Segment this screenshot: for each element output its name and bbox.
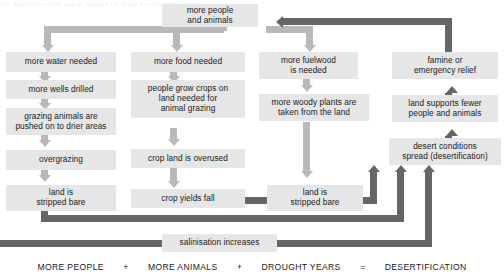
arrow-down-to-more-food (171, 45, 183, 52)
node-desert-conditions-spread[interactable]: desert conditions spread (desertificatio… (389, 138, 501, 165)
summary-equation: MORE PEOPLE + MORE ANIMALS + DROUGHT YEA… (0, 256, 504, 278)
node-land-is-stripped-bare-right[interactable]: land is stripped bare (267, 185, 363, 211)
connector-left-drop (44, 26, 51, 46)
node-more-wells-drilled[interactable]: more wells drilled (6, 80, 116, 99)
equation-term-more-people: MORE PEOPLE (37, 262, 103, 272)
arrow-down-to-more-water (42, 45, 54, 52)
node-people-grow-crops[interactable]: people grow crops on land needed for ani… (131, 80, 245, 118)
node-land-is-stripped-bare-left[interactable]: land is stripped bare (6, 185, 116, 211)
arrow-woody-to-stripped (301, 171, 313, 178)
node-more-water-needed[interactable]: more water needed (6, 52, 116, 72)
node-salinisation-increases[interactable]: salinisation increases (162, 234, 277, 252)
node-more-fuelwood-is-needed[interactable]: more fuelwood is needed (259, 52, 358, 79)
equation-operator-plus-1: + (104, 262, 148, 272)
arrow-up-to-famine (446, 86, 458, 93)
connector-centre-drop (173, 33, 180, 45)
connector-yields-corner-up (370, 172, 377, 204)
connector-famine-left-bus (283, 18, 452, 25)
node-crop-yields-fall[interactable]: crop yields fall (131, 189, 245, 208)
arrow-up-to-land-supports-fewer (446, 129, 458, 136)
arrow-overgrazing-to-stripped (39, 175, 51, 182)
equation-term-drought-years: DROUGHT YEARS (262, 262, 341, 272)
node-more-people-and-animals[interactable]: more people and animals (162, 4, 258, 27)
flow-diagram: the desertification spiral caused by mor… (0, 0, 504, 278)
connector-woody-to-stripped (303, 122, 310, 172)
arrow-cropland-to-yields (168, 181, 180, 188)
node-overgrazing[interactable]: overgrazing (6, 150, 116, 170)
arrow-up-desert-middle (395, 165, 407, 172)
node-more-woody-plants-taken[interactable]: more woody plants are taken from the lan… (259, 94, 369, 121)
node-grazing-animals-pushed[interactable]: grazing animals are pushed on to drier a… (6, 108, 116, 135)
equation-term-desertification: DESERTIFICATION (385, 262, 467, 272)
connector-desert-right-up (425, 172, 432, 247)
node-more-food-needed[interactable]: more food needed (131, 52, 245, 72)
connector-stripped-left-right (41, 215, 404, 222)
arrow-up-desert-right (423, 165, 435, 172)
equation-operator-plus-2: + (218, 262, 262, 272)
connector-right-drop (306, 26, 313, 46)
equation-operator-equals: = (341, 262, 385, 272)
arrow-fuelwood-to-woody (301, 85, 313, 92)
equation-term-more-animals: MORE ANIMALS (148, 262, 218, 272)
connector-cropland-to-yields (170, 168, 177, 182)
node-famine-or-emergency-relief[interactable]: famine or emergency relief (392, 52, 498, 79)
connector-bus-left (44, 26, 224, 33)
node-land-supports-fewer[interactable]: land supports fewer people and animals (392, 95, 498, 122)
arrow-down-to-more-fuelwood (304, 45, 316, 52)
arrow-grazing-to-overgrazing (39, 140, 51, 147)
arrow-up-desert-left (368, 165, 380, 172)
arrow-left-into-more-people (276, 16, 283, 28)
node-crop-land-is-overused[interactable]: crop land is overused (131, 149, 245, 168)
connector-desert-mid-up (397, 172, 404, 222)
arrow-crops-to-cropland (168, 139, 180, 146)
